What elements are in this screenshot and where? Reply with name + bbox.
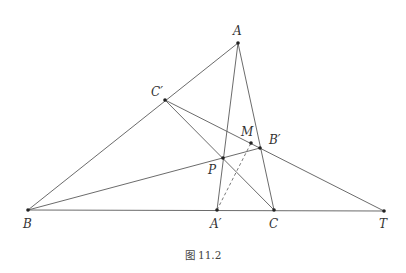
- label-A: A: [233, 25, 242, 37]
- points: [26, 41, 386, 213]
- label-M: M: [241, 126, 253, 138]
- point-A: [236, 41, 240, 45]
- figure-caption: 图 11.2: [0, 247, 406, 262]
- label-C: C: [269, 218, 278, 230]
- label-C-prime: C′: [151, 86, 163, 98]
- segment-AA-prime: [217, 43, 238, 210]
- label-A-prime: A′: [210, 218, 221, 230]
- point-B: [26, 208, 30, 212]
- point-C: [272, 208, 276, 212]
- segments: [28, 43, 384, 211]
- point-B-prime: [258, 146, 262, 150]
- segment-BA: [28, 43, 238, 210]
- label-P: P: [208, 164, 216, 176]
- point-C-prime: [163, 98, 167, 102]
- segment-BB-prime: [28, 148, 260, 210]
- figure-canvas: [0, 0, 406, 273]
- segment-BT: [28, 210, 384, 211]
- point-A-prime: [215, 208, 219, 212]
- point-M: [249, 141, 253, 145]
- geometry-figure: A C′ M B′ P B A′ C T 图 11.2: [0, 0, 406, 273]
- label-B-prime: B′: [269, 134, 281, 146]
- label-B: B: [23, 218, 32, 230]
- label-T: T: [379, 218, 387, 230]
- dashed-segment-A-prime-M: [217, 143, 251, 210]
- point-T: [382, 209, 386, 213]
- point-P: [221, 156, 225, 160]
- segment-C-prime-T: [165, 100, 384, 211]
